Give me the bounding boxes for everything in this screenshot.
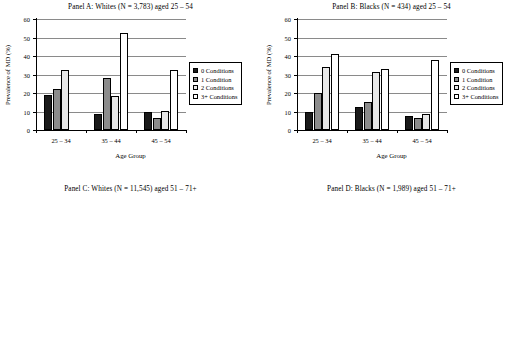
bar [170,70,178,130]
x-axis-title: Age Group [261,152,522,159]
gridline [36,75,186,76]
bar [355,107,363,130]
legend: 0 Conditions1 Condition2 Conditions3+ Co… [450,62,503,105]
y-axis-title: Prevalence of MD (%) [265,45,272,105]
x-tick-label: 35 – 44 [362,137,381,144]
y-axis-line [36,18,37,130]
bar [422,114,430,130]
y-tick-label: 20 [16,90,30,97]
y-tick-label: 30 [16,71,30,78]
legend-item: 3+ Conditions [454,93,498,100]
bar [405,116,413,130]
y-tick-label: 60 [277,16,291,23]
panel-title: Panel D: Blacks (N = 1,989) aged 51 – 71… [261,185,522,193]
panel-b: Panel B: Blacks (N = 434) aged 25 – 54Pr… [261,0,522,182]
y-tick-label: 0 [277,127,291,134]
gridline [36,56,186,57]
x-axis-line [297,130,447,131]
x-tick-label: 35 – 44 [101,137,120,144]
legend-item: 1 Condition [193,76,237,83]
bar [61,70,69,130]
y-tick-label: 40 [277,53,291,60]
x-tick-mark [86,130,87,133]
panel-title: Panel A: Whites (N = 3,783) aged 25 – 54 [0,3,261,11]
y-tick-label: 60 [16,16,30,23]
bar [364,102,372,130]
bar [331,54,339,130]
x-tick-mark [186,130,187,133]
legend-item: 2 Conditions [193,84,237,91]
y-axis-title: Prevalence of MD (%) [4,45,11,105]
bar [314,93,322,130]
legend-swatch-icon [193,68,198,73]
legend-swatch-icon [193,94,198,99]
y-tick-label: 0 [16,127,30,134]
bar [111,96,119,130]
legend-label: 2 Conditions [201,84,234,91]
x-axis-line [36,130,186,131]
bar [94,114,102,130]
panel-title: Panel B: Blacks (N = 434) aged 25 – 54 [261,3,522,11]
legend-label: 3+ Conditions [462,93,498,100]
legend: 0 Conditions1 Condition2 Conditions3+ Co… [189,62,242,105]
gridline [297,38,447,39]
figure-panel-grid: Panel A: Whites (N = 3,783) aged 25 – 54… [0,0,522,363]
y-tick-label: 30 [277,71,291,78]
x-tick-label: 45 – 54 [412,137,431,144]
panel-c: Panel C: Whites (N = 11,545) aged 51 – 7… [0,182,261,363]
legend-item: 3+ Conditions [193,93,237,100]
legend-label: 2 Conditions [462,84,495,91]
y-tick-label: 50 [277,34,291,41]
y-tick-label: 40 [16,53,30,60]
y-axis-line [297,18,298,130]
legend-swatch-icon [193,85,198,90]
bar [103,78,111,130]
y-tick-label: 10 [16,108,30,115]
x-tick-mark [136,130,137,133]
bar [372,72,380,130]
bar [414,118,422,130]
x-tick-mark [447,130,448,133]
legend-item: 0 Conditions [193,67,237,74]
y-tick-label: 50 [16,34,30,41]
x-tick-mark [397,130,398,133]
legend-item: 1 Condition [454,76,498,83]
bar [431,60,439,130]
legend-swatch-icon [454,85,459,90]
gridline [297,56,447,57]
legend-item: 0 Conditions [454,67,498,74]
legend-label: 3+ Conditions [201,93,237,100]
legend-swatch-icon [193,77,198,82]
legend-swatch-icon [454,77,459,82]
legend-label: 1 Condition [462,76,492,83]
x-tick-label: 45 – 54 [151,137,170,144]
x-tick-label: 25 – 34 [51,137,70,144]
y-tick-label: 20 [277,90,291,97]
panel-d: Panel D: Blacks (N = 1,989) aged 51 – 71… [261,182,522,363]
x-tick-mark [347,130,348,133]
x-tick-mark [297,130,298,133]
bar [322,67,330,130]
bar [161,111,169,130]
gridline [36,19,186,20]
x-axis-title: Age Group [0,152,261,159]
gridline [297,19,447,20]
bar [120,33,128,130]
bar [381,69,389,130]
bar [305,112,313,130]
bar [144,112,152,131]
y-tick-label: 10 [277,108,291,115]
x-tick-mark [36,130,37,133]
panel-title: Panel C: Whites (N = 11,545) aged 51 – 7… [0,185,261,193]
legend-item: 2 Conditions [454,84,498,91]
bar [53,89,61,130]
legend-swatch-icon [454,94,459,99]
x-tick-label: 25 – 34 [312,137,331,144]
gridline [36,38,186,39]
legend-swatch-icon [454,68,459,73]
legend-label: 0 Conditions [201,67,234,74]
bar [153,118,161,130]
bar [44,95,52,130]
legend-label: 0 Conditions [462,67,495,74]
legend-label: 1 Condition [201,76,231,83]
